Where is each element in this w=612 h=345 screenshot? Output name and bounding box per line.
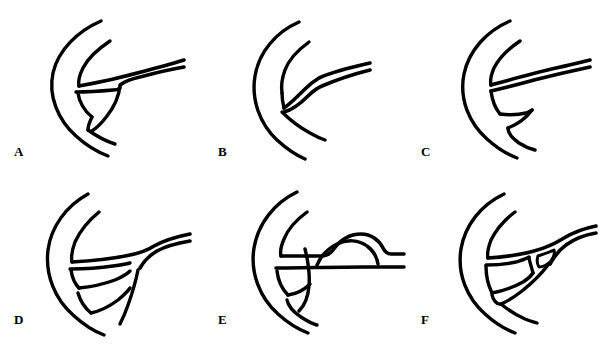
panel-e-drawing: [204, 172, 408, 345]
panel-a-drawing: [0, 0, 204, 172]
panel-label-c: C: [421, 145, 430, 158]
panel-c-drawing: [408, 0, 612, 172]
panel-label-f: F: [421, 313, 429, 326]
panel-f: F: [408, 172, 612, 344]
panel-c: C: [408, 0, 612, 172]
panel-label-e: E: [218, 313, 227, 326]
panel-label-a: A: [14, 145, 23, 158]
panel-e: E: [204, 172, 408, 344]
panel-d-drawing: [0, 172, 204, 345]
panel-label-b: B: [218, 145, 227, 158]
panel-b: B: [204, 0, 408, 172]
figure-root: A B: [0, 0, 612, 345]
panel-d: D: [0, 172, 204, 344]
panel-a: A: [0, 0, 204, 172]
panel-b-drawing: [204, 0, 408, 172]
panel-f-drawing: [408, 172, 612, 345]
panel-label-d: D: [14, 313, 23, 326]
